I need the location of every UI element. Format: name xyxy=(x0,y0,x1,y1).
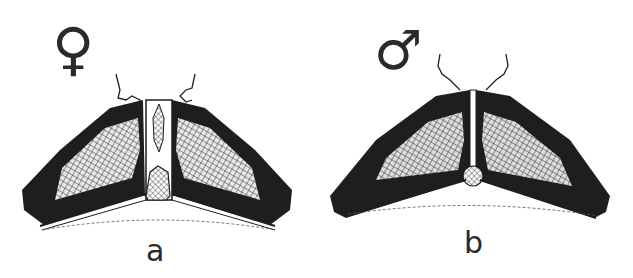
panel-label-a: a xyxy=(146,236,164,266)
panel-b-male: ♂ b xyxy=(316,0,633,278)
palps-icon xyxy=(438,54,508,90)
panel-a-female: ♀ a xyxy=(0,0,316,278)
panel-label-b: b xyxy=(464,228,483,258)
